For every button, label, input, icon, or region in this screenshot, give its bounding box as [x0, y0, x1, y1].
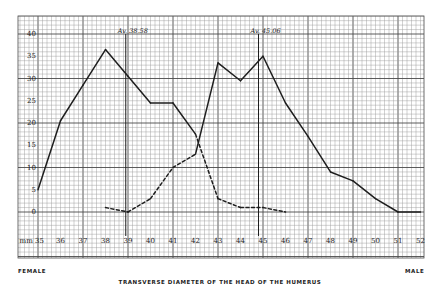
graph-paper-grid	[18, 16, 424, 258]
y-tick-label: 25	[27, 97, 36, 105]
x-tick-label: 46	[281, 237, 290, 245]
x-tick-label: 49	[349, 237, 358, 245]
average-annotation: Av. 38.58	[117, 27, 148, 35]
x-tick-label: 51	[394, 237, 403, 245]
male-label: MALE	[405, 268, 424, 274]
x-axis-tick-labels: mm 353637383940414243444546474849505152	[20, 237, 425, 245]
x-tick-label: 48	[326, 237, 335, 245]
average-annotation: Av. 45.06	[250, 27, 281, 35]
x-tick-label: 52	[416, 237, 425, 245]
x-tick-label: 43	[214, 237, 223, 245]
x-tick-label: 37	[79, 237, 88, 245]
x-tick-label: 38	[101, 237, 110, 245]
chart-title: TRANSVERSE DIAMETER OF THE HEAD OF THE H…	[0, 279, 440, 285]
y-axis-tick-labels: 0510152025303540	[27, 30, 36, 216]
y-tick-label: 30	[27, 75, 36, 83]
chart-canvas: 0510152025303540 mm 35363738394041424344…	[0, 0, 440, 294]
x-tick-label: 45	[259, 237, 268, 245]
x-tick-label: 36	[56, 237, 65, 245]
y-tick-label: 0	[32, 208, 36, 216]
y-tick-label: 35	[27, 52, 36, 60]
y-tick-label: 20	[27, 119, 36, 127]
y-tick-label: 15	[27, 141, 36, 149]
x-tick-label: 50	[371, 237, 380, 245]
x-tick-label: 42	[191, 237, 200, 245]
female-label: FEMALE	[18, 268, 46, 274]
y-tick-label: 5	[32, 186, 36, 194]
y-tick-label: 40	[27, 30, 36, 38]
x-tick-label: 44	[236, 237, 245, 245]
x-tick-label: 40	[146, 237, 155, 245]
x-tick-label: 41	[169, 237, 178, 245]
x-tick-label: mm 35	[20, 237, 44, 245]
x-tick-label: 47	[304, 237, 313, 245]
x-tick-label: 39	[124, 237, 133, 245]
y-tick-label: 10	[27, 164, 36, 172]
